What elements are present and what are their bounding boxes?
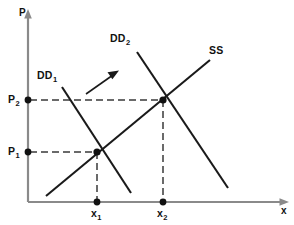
quantity-tick-x2-sub: 2 [163,213,167,222]
price-tick-p1-sub: 1 [16,151,20,160]
quantity-axis-label: x [281,206,287,216]
quantity-tick-label-x2: x2 [157,208,167,219]
dot-quantity-x1 [94,199,101,206]
demand-curve-label-dd2: DD2 [110,33,130,44]
dot-price-p1 [25,149,32,156]
supply-curve-label-ss: SS [209,45,223,56]
dot-quantity-x2 [160,199,167,206]
price-tick-p2-base: P [8,93,15,105]
price-tick-label-p1: P1 [8,146,20,157]
dot-equilibrium-2 [159,96,166,103]
quantity-tick-x1-sub: 1 [97,213,101,222]
curves-group [46,52,228,196]
dd1-label-sub: 1 [53,75,57,84]
price-tick-p2-sub: 2 [16,99,20,108]
price-tick-label-p2: P2 [8,94,20,105]
price-axis-label: P [19,8,26,18]
supply-curve-ss [46,60,210,196]
demand-curve-label-dd1: DD1 [37,70,57,81]
demand-shift-arrow [86,71,119,95]
dd1-label-base: DD [37,69,53,81]
figure-canvas [0,0,294,225]
demand-curve-dd2 [137,52,228,188]
dd2-label-base: DD [110,32,126,44]
dot-price-p2 [25,97,32,104]
dot-equilibrium-1 [93,148,100,155]
price-tick-p1-base: P [8,145,15,157]
axes-group [24,9,289,206]
supply-demand-figure: P x P2 P1 x1 x2 DD1 DD2 SS [0,0,294,225]
shift-arrow-shaft [86,75,113,94]
quantity-tick-label-x1: x1 [91,208,101,219]
dd2-label-sub: 2 [126,38,130,47]
